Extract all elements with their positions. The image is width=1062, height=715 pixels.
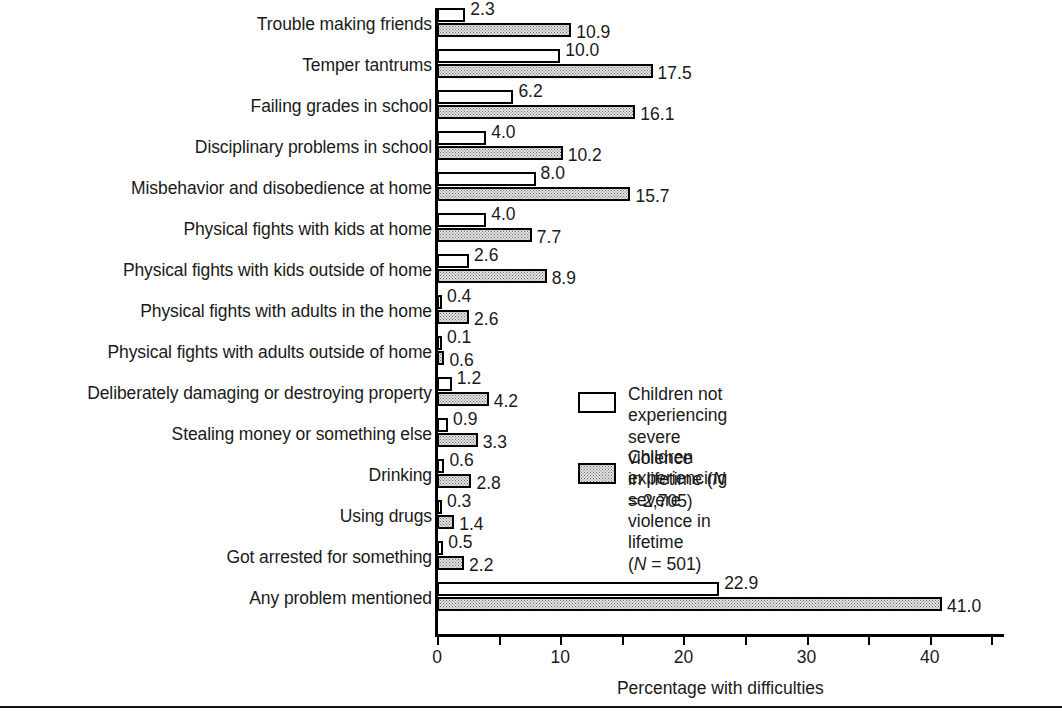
bar-value-label: 4.2: [494, 393, 518, 411]
x-axis-tick: [437, 634, 439, 645]
bar-no-severe-violence: [437, 254, 469, 268]
bar-no-severe-violence: [437, 500, 442, 514]
category-label: Failing grades in school: [251, 98, 432, 116]
x-axis-line: [437, 634, 1004, 637]
x-axis-tick-label: 10: [530, 649, 590, 667]
x-axis-tick: [868, 634, 870, 645]
bar-value-label: 1.2: [457, 370, 481, 388]
bar-value-label: 0.5: [448, 534, 472, 552]
bar-no-severe-violence: [437, 213, 486, 227]
x-axis-tick: [499, 634, 501, 645]
bar-no-severe-violence: [437, 418, 448, 432]
bar-severe-violence: [437, 64, 653, 78]
legend-swatch-severe-violence: [578, 463, 616, 484]
category-label: Got arrested for something: [226, 549, 432, 567]
category-label: Any problem mentioned: [249, 590, 432, 608]
bar-no-severe-violence: [437, 49, 560, 63]
horizontal-bar-chart: Trouble making friendsTemper tantrumsFai…: [0, 0, 1062, 715]
bar-value-label: 16.1: [640, 106, 674, 124]
bar-value-label: 6.2: [518, 83, 542, 101]
bar-value-label: 8.0: [541, 165, 565, 183]
x-axis-tick: [622, 634, 624, 645]
bar-value-label: 0.6: [449, 352, 473, 370]
bar-value-label: 4.0: [491, 206, 515, 224]
bar-value-label: 0.3: [447, 493, 471, 511]
bar-severe-violence: [437, 392, 489, 406]
category-label: Temper tantrums: [302, 57, 432, 75]
bar-value-label: 22.9: [724, 575, 758, 593]
bar-no-severe-violence: [437, 336, 442, 350]
category-label: Using drugs: [340, 508, 432, 526]
x-axis-tick: [991, 634, 993, 645]
legend-n-value: = 501): [646, 554, 701, 574]
category-label: Disciplinary problems in school: [195, 139, 432, 157]
x-axis-tick: [683, 634, 685, 645]
bar-value-label: 0.9: [453, 411, 477, 429]
bar-no-severe-violence: [437, 131, 486, 145]
category-label: Physical fights with adults outside of h…: [108, 344, 432, 362]
bar-value-label: 2.3: [470, 1, 494, 19]
bar-value-label: 10.2: [568, 147, 602, 165]
category-label: Physical fights with kids outside of hom…: [123, 262, 432, 280]
bar-value-label: 7.7: [537, 229, 561, 247]
bar-no-severe-violence: [437, 541, 443, 555]
legend-label-line2: (N = 501): [628, 554, 727, 575]
bar-no-severe-violence: [437, 8, 465, 22]
legend-label-line1: Children experiencing severe violence in…: [628, 447, 727, 554]
bar-value-label: 2.6: [474, 247, 498, 265]
bar-value-label: 8.9: [552, 270, 576, 288]
bar-no-severe-violence: [437, 172, 536, 186]
bar-severe-violence: [437, 269, 547, 283]
y-axis-spine: [435, 8, 438, 637]
x-axis-tick: [745, 634, 747, 645]
bar-severe-violence: [437, 474, 471, 488]
bar-value-label: 0.6: [449, 452, 473, 470]
bar-value-label: 15.7: [635, 188, 669, 206]
bar-severe-violence: [437, 433, 478, 447]
bar-severe-violence: [437, 146, 563, 160]
bar-no-severe-violence: [437, 459, 444, 473]
bar-no-severe-violence: [437, 295, 442, 309]
bar-value-label: 1.4: [459, 516, 483, 534]
bar-severe-violence: [437, 597, 942, 611]
x-axis-tick-label: 30: [777, 649, 837, 667]
category-label: Stealing money or something else: [172, 426, 432, 444]
bar-value-label: 0.1: [447, 329, 471, 347]
bar-value-label: 3.3: [483, 434, 507, 452]
legend-n-symbol: N: [634, 554, 647, 574]
bar-value-label: 41.0: [947, 598, 981, 616]
bar-value-label: 4.0: [491, 124, 515, 142]
category-label: Misbehavior and disobedience at home: [131, 180, 432, 198]
category-label: Drinking: [369, 467, 432, 485]
category-label: Deliberately damaging or destroying prop…: [87, 385, 432, 403]
bar-severe-violence: [437, 187, 630, 201]
legend-label: Children experiencing severe violence in…: [628, 447, 727, 575]
bar-value-label: 17.5: [658, 65, 692, 83]
x-axis-tick: [560, 634, 562, 645]
bar-no-severe-violence: [437, 377, 452, 391]
bar-severe-violence: [437, 105, 635, 119]
bar-severe-violence: [437, 351, 444, 365]
category-label: Physical fights with kids at home: [183, 221, 432, 239]
bar-severe-violence: [437, 515, 454, 529]
bar-value-label: 10.0: [565, 42, 599, 60]
bar-value-label: 2.6: [474, 311, 498, 329]
x-axis-tick-label: 40: [900, 649, 960, 667]
bar-value-label: 10.9: [576, 24, 610, 42]
bar-no-severe-violence: [437, 90, 513, 104]
x-axis-tick-label: 0: [407, 649, 467, 667]
x-axis-tick: [930, 634, 932, 645]
page-bottom-rule: [0, 706, 1062, 708]
legend-swatch-no-severe-violence: [578, 392, 616, 413]
bar-severe-violence: [437, 23, 571, 37]
x-axis-tick-label: 20: [653, 649, 713, 667]
category-label: Physical fights with adults in the home: [140, 303, 432, 321]
x-axis-title: Percentage with difficulties: [407, 680, 1034, 698]
bar-severe-violence: [437, 228, 532, 242]
x-axis-tick: [807, 634, 809, 645]
bar-value-label: 2.2: [469, 557, 493, 575]
bar-severe-violence: [437, 310, 469, 324]
category-label: Trouble making friends: [257, 16, 432, 34]
bar-value-label: 2.8: [476, 475, 500, 493]
bar-severe-violence: [437, 556, 464, 570]
